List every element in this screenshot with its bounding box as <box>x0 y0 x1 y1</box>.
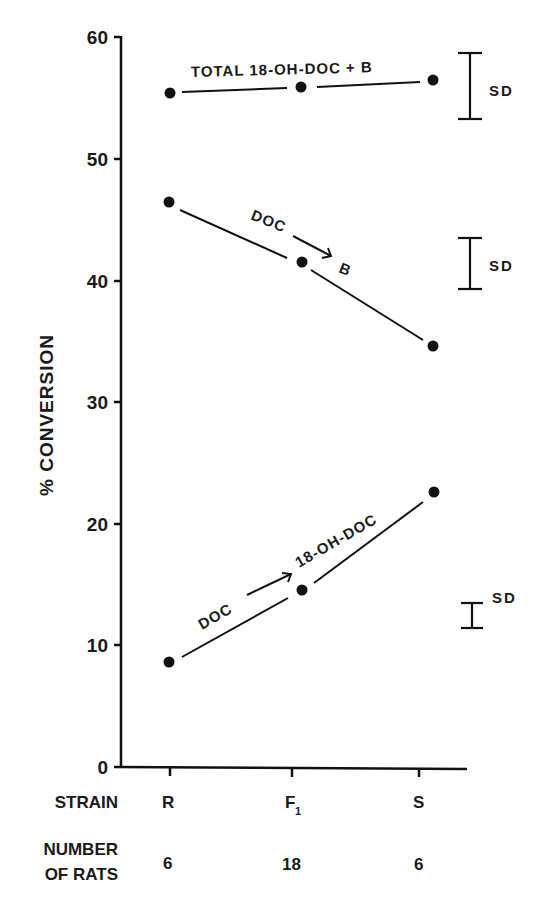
sd-label-doc18: SD <box>492 589 517 606</box>
label-docb-b: B <box>337 259 354 279</box>
rats-f1: 18 <box>282 855 301 874</box>
sd-bar-doc18 <box>461 603 483 628</box>
point-doc18-r <box>164 657 175 668</box>
point-total-r <box>165 88 176 99</box>
svg-text:F: F <box>285 793 295 812</box>
strain-f1-subscript: 1 <box>295 805 301 817</box>
x-axis <box>114 767 467 777</box>
ytick-0: 0 <box>97 757 108 778</box>
ytick-50: 50 <box>87 149 108 170</box>
series-doc-18oh: DOC 18-OH-DOC <box>164 487 440 668</box>
strain-f1: F 1 <box>285 793 301 817</box>
point-docb-f1 <box>297 257 308 268</box>
rats-row-label-line2: OF RATS <box>45 865 118 884</box>
point-docb-r <box>164 197 175 208</box>
point-total-s <box>428 75 439 86</box>
point-total-f1 <box>296 82 307 93</box>
ytick-30: 30 <box>87 392 108 413</box>
sd-bar-docb <box>458 238 482 289</box>
sd-label-total: SD <box>489 82 514 99</box>
y-axis-title: % CONVERSION <box>36 334 57 496</box>
series-doc-b: DOC B <box>164 197 439 352</box>
arrow-icon <box>293 236 331 258</box>
ytick-20: 20 <box>87 514 108 535</box>
strain-s: S <box>413 793 424 812</box>
sd-bar-total <box>458 53 482 119</box>
y-tick-labels: 0 10 20 30 40 50 60 <box>87 27 108 778</box>
label-doc18-product: 18-OH-DOC <box>292 510 380 570</box>
label-docb-doc: DOC <box>249 206 289 235</box>
rats-r: 6 <box>163 854 172 873</box>
strain-row-label: STRAIN <box>55 793 118 812</box>
ytick-40: 40 <box>87 271 108 292</box>
label-total: TOTAL 18-OH-DOC + B <box>191 58 373 80</box>
strain-r: R <box>162 793 174 812</box>
ytick-60: 60 <box>87 27 108 48</box>
y-axis <box>114 36 121 768</box>
rats-row-label-line1: NUMBER <box>43 840 118 859</box>
arrow-icon <box>247 573 291 595</box>
chart-canvas: 0 10 20 30 40 50 60 % CONVERSION TOTAL 1… <box>0 0 544 905</box>
rats-s: 6 <box>414 855 423 874</box>
point-doc18-s <box>429 487 440 498</box>
point-docb-s <box>428 341 439 352</box>
label-doc18-doc: DOC <box>195 600 235 633</box>
sd-label-docb: SD <box>489 257 514 274</box>
point-doc18-f1 <box>297 585 308 596</box>
series-total: TOTAL 18-OH-DOC + B <box>165 58 439 98</box>
ytick-10: 10 <box>87 635 108 656</box>
